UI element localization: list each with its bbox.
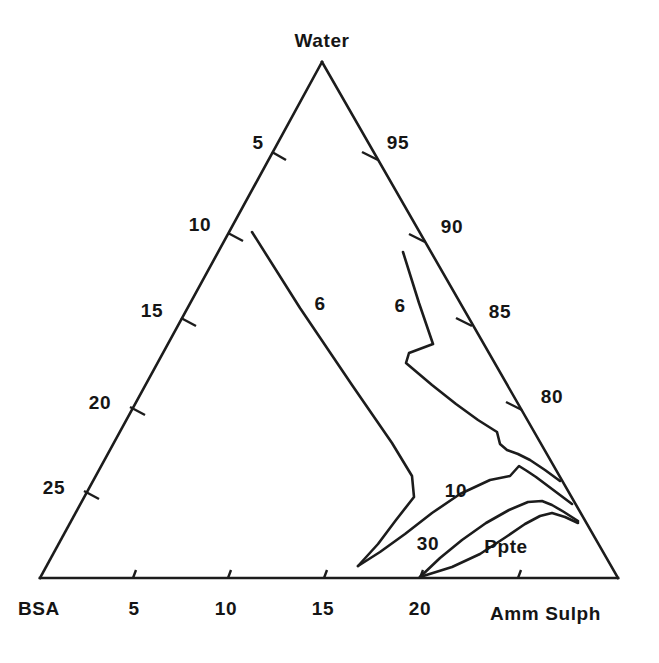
bottom-tick-label-20: 20 xyxy=(409,598,431,619)
contour-curves-group xyxy=(252,232,578,577)
contour-label-6-left: 6 xyxy=(314,293,325,314)
left-tick-10 xyxy=(228,233,243,241)
right-axis-line xyxy=(322,62,618,578)
bottom-tick-label-5: 5 xyxy=(128,598,139,619)
left-tick-label-15: 15 xyxy=(141,300,163,321)
ternary-phase-diagram-figure: Water BSA Amm Sulph 5 10 15 20 25 95 90 … xyxy=(0,0,659,663)
right-tick-label-85: 85 xyxy=(489,301,511,322)
diagram-canvas: Water BSA Amm Sulph 5 10 15 20 25 95 90 … xyxy=(0,0,659,663)
left-axis-line xyxy=(40,62,322,578)
contour-6-right xyxy=(403,252,560,481)
right-tick-label-95: 95 xyxy=(387,132,409,153)
contour-6-left xyxy=(252,232,414,566)
contour-label-30: 30 xyxy=(417,533,439,554)
right-tick-label-90: 90 xyxy=(441,216,463,237)
left-tick-label-5: 5 xyxy=(252,132,263,153)
contour-label-6-right: 6 xyxy=(394,295,405,316)
right-tick-label-80: 80 xyxy=(541,386,563,407)
corner-label-amm-sulph: Amm Sulph xyxy=(490,603,601,624)
left-tick-5 xyxy=(272,152,286,160)
corner-label-bsa: BSA xyxy=(18,598,60,619)
left-tick-label-25: 25 xyxy=(43,477,65,498)
left-axis-ticks-group xyxy=(84,152,286,499)
bottom-tick-label-10: 10 xyxy=(215,598,237,619)
bottom-tick-label-15: 15 xyxy=(312,598,334,619)
region-label-ppte: Ppte xyxy=(484,536,528,557)
left-tick-15 xyxy=(181,318,196,326)
contour-label-10: 10 xyxy=(445,480,467,501)
left-tick-label-10: 10 xyxy=(189,214,211,235)
apex-label-water: Water xyxy=(294,30,349,51)
left-tick-label-20: 20 xyxy=(89,392,111,413)
